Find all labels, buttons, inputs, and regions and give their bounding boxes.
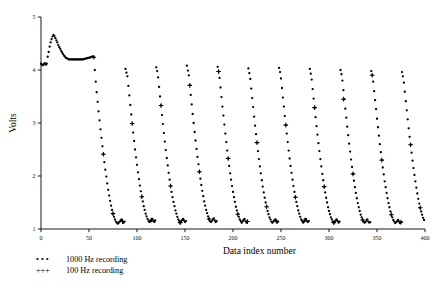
data-point-dot <box>386 197 388 199</box>
data-point-dot <box>288 157 290 159</box>
data-point-dot <box>226 149 228 151</box>
data-point-dot <box>143 205 145 207</box>
data-point-dot <box>134 148 136 150</box>
data-point-dot <box>163 132 165 134</box>
data-point-dot <box>230 179 232 181</box>
data-point-dot <box>411 159 413 161</box>
data-point-dot <box>235 206 237 208</box>
data-point-dot <box>257 150 259 152</box>
data-point-dot <box>297 209 299 211</box>
data-point-dot <box>360 214 362 216</box>
data-point-dot <box>124 68 126 70</box>
data-point-dot <box>171 196 173 198</box>
data-point-dot <box>146 218 148 220</box>
data-point-dot <box>97 110 99 112</box>
data-point-dot <box>319 158 321 160</box>
legend-symbol-dots: • • • <box>36 255 49 264</box>
data-point-dot <box>109 200 111 202</box>
data-point-plus <box>101 152 106 157</box>
data-point-dot <box>415 187 417 189</box>
data-point-dot <box>192 122 194 124</box>
data-point-dot <box>342 89 344 91</box>
x-tick-label: 300 <box>325 235 334 241</box>
data-point-dot <box>201 190 203 192</box>
data-point-dot <box>316 134 318 136</box>
data-point-dot <box>255 133 257 135</box>
y-tick-label: 1 <box>33 226 36 232</box>
data-point-dot <box>320 165 322 167</box>
data-point-dot <box>422 217 424 219</box>
data-point-dot <box>370 70 372 72</box>
data-point-dot <box>417 198 419 200</box>
legend-label-100hz: 100 Hz recording <box>66 266 123 275</box>
y-tick-label: 5 <box>33 14 36 20</box>
data-point-dot <box>375 108 377 110</box>
data-point-dot <box>55 39 57 41</box>
data-point-dot <box>262 185 264 187</box>
data-point-dot <box>216 220 218 222</box>
data-point-dot <box>420 210 422 212</box>
data-point-dot <box>351 166 353 168</box>
data-point-dot <box>203 200 205 202</box>
data-point-dot <box>220 96 222 98</box>
data-point-dot <box>56 41 58 43</box>
data-point-dot <box>282 96 284 98</box>
x-axis-title: Data index number <box>223 246 297 256</box>
data-point-dot <box>264 197 266 199</box>
data-point-dot <box>416 192 418 194</box>
data-point-dot <box>264 201 266 203</box>
data-point-plus <box>370 73 375 78</box>
data-point-dot <box>168 179 170 181</box>
data-point-dot <box>309 68 311 70</box>
data-point-dot <box>96 91 98 93</box>
data-point-dot <box>260 172 262 174</box>
data-point-dot <box>106 182 108 184</box>
data-point-dot <box>156 70 158 72</box>
data-point-dot <box>380 151 382 153</box>
data-point-dot <box>126 75 128 77</box>
data-point-plus <box>255 140 260 145</box>
data-point-dot <box>413 174 415 176</box>
data-point-plus <box>197 169 202 174</box>
y-tick-label: 4 <box>33 67 36 73</box>
data-point-dot <box>407 118 409 120</box>
data-point-dot <box>167 164 169 166</box>
data-point-dot <box>145 215 147 217</box>
data-point-dot <box>423 219 425 221</box>
data-point-dot <box>125 72 127 74</box>
data-point-dot <box>325 197 327 199</box>
data-point-dot <box>281 87 283 89</box>
data-point-dot <box>165 149 167 151</box>
data-point-dot <box>162 123 164 125</box>
data-point-dot <box>192 113 194 115</box>
data-point-dot <box>48 46 50 48</box>
data-point-dot <box>385 192 387 194</box>
data-point-dot <box>414 180 416 182</box>
data-point-dot <box>288 149 290 151</box>
data-point-dot <box>95 81 97 83</box>
data-point-dot <box>296 205 298 207</box>
data-point-dot <box>142 200 144 202</box>
data-point-dot <box>110 205 112 207</box>
data-point-dot <box>225 141 227 143</box>
data-point-plus <box>418 206 423 211</box>
data-point-dot <box>218 77 220 79</box>
data-point-dot <box>348 143 350 145</box>
data-point-dot <box>324 191 326 193</box>
data-point-dot <box>53 35 55 37</box>
data-point-dot <box>280 77 282 79</box>
data-point-dot <box>190 94 192 96</box>
data-point-dot <box>249 78 251 80</box>
data-point-dot <box>103 161 105 163</box>
data-point-dot <box>175 212 177 214</box>
data-point-plus <box>236 212 241 217</box>
data-point-plus <box>226 156 231 161</box>
x-tick-label: 150 <box>181 235 190 241</box>
data-point-dot <box>185 220 187 222</box>
data-point-dot <box>382 166 384 168</box>
data-point-dot <box>57 44 59 46</box>
data-point-dot <box>266 210 268 212</box>
data-point-dot <box>157 76 159 78</box>
data-point-dot <box>140 190 142 192</box>
data-point-dot <box>128 94 130 96</box>
